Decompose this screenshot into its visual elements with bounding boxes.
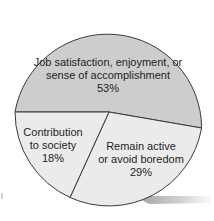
label-society-pct: 18% xyxy=(23,152,82,165)
label-job-satisfaction: Job satisfaction, enjoyment, or sense of… xyxy=(34,56,183,95)
label-job-line2: sense of accomplishment xyxy=(34,69,183,82)
label-job-line1: Job satisfaction, enjoyment, or xyxy=(34,56,183,69)
label-contribution-society: Contribution to society 18% xyxy=(23,126,82,165)
label-remain-active: Remain active or avoid boredom 29% xyxy=(98,140,184,179)
label-society-line1: Contribution xyxy=(23,126,82,139)
label-job-pct: 53% xyxy=(34,82,183,95)
pie-chart xyxy=(0,0,214,221)
margin-mark xyxy=(1,193,3,199)
pie-shadow xyxy=(140,196,210,204)
label-active-pct: 29% xyxy=(98,166,184,179)
label-society-line2: to society xyxy=(23,139,82,152)
label-active-line2: or avoid boredom xyxy=(98,153,184,166)
label-active-line1: Remain active xyxy=(98,140,184,153)
